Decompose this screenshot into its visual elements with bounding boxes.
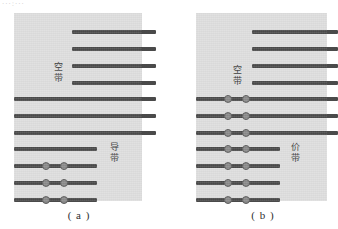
label-char: 带	[289, 153, 301, 164]
label-char: 导	[108, 142, 120, 153]
label-valence-band-b: 价带	[289, 142, 301, 164]
band-line	[14, 97, 156, 101]
band-line	[196, 181, 280, 185]
electron-dot	[224, 196, 232, 204]
label-char: 价	[289, 142, 301, 153]
band-line	[252, 64, 338, 68]
label-char: 带	[52, 73, 64, 84]
band-line	[196, 131, 338, 135]
band-line	[72, 30, 156, 34]
band-line	[196, 114, 338, 118]
top-artifact-text: ···:···	[2, 0, 25, 8]
band-line	[14, 164, 97, 168]
band-line	[196, 198, 280, 202]
caption-panel-a: ( a )	[52, 209, 106, 221]
electron-dot	[242, 196, 250, 204]
caption-panel-b: ( b )	[236, 209, 290, 221]
band-line	[72, 47, 156, 51]
band-line	[252, 47, 338, 51]
electron-dot	[224, 145, 232, 153]
electron-dot	[60, 196, 68, 204]
label-empty-band-a: 空带	[52, 62, 64, 84]
band-line	[252, 30, 338, 34]
electron-dot	[224, 112, 232, 120]
band-line	[14, 131, 156, 135]
panel-a-band-lines	[14, 13, 142, 201]
band-line	[72, 81, 156, 85]
band-line	[14, 198, 97, 202]
electron-dot	[242, 162, 250, 170]
panel-b-band-lines	[196, 13, 327, 201]
label-conduction-band-a: 导带	[108, 142, 120, 164]
panel-b: 空带 价带	[196, 13, 327, 201]
band-line	[72, 64, 156, 68]
electron-dot	[224, 129, 232, 137]
electron-dot	[242, 95, 250, 103]
electron-dot	[60, 179, 68, 187]
panel-a: 空带 导带	[14, 13, 142, 201]
label-char: 空	[231, 65, 243, 76]
label-char: 空	[52, 62, 64, 73]
band-line	[14, 114, 156, 118]
band-line	[252, 81, 338, 85]
electron-dot	[42, 179, 50, 187]
label-char: 带	[108, 153, 120, 164]
band-line	[196, 147, 280, 151]
electron-dot	[242, 129, 250, 137]
band-line	[196, 97, 338, 101]
electron-dot	[242, 179, 250, 187]
electron-dot	[224, 179, 232, 187]
electron-dot	[42, 196, 50, 204]
electron-dot	[42, 162, 50, 170]
label-empty-band-b: 空带	[231, 65, 243, 87]
electron-dot	[242, 145, 250, 153]
band-line	[196, 164, 280, 168]
energy-band-figure: ···:··· 空带 导带 空带 价带 ( a ) ( b )	[0, 0, 338, 229]
band-line	[14, 181, 97, 185]
electron-dot	[224, 95, 232, 103]
electron-dot	[224, 162, 232, 170]
band-line	[14, 147, 97, 151]
electron-dot	[242, 112, 250, 120]
label-char: 带	[231, 76, 243, 87]
electron-dot	[60, 162, 68, 170]
